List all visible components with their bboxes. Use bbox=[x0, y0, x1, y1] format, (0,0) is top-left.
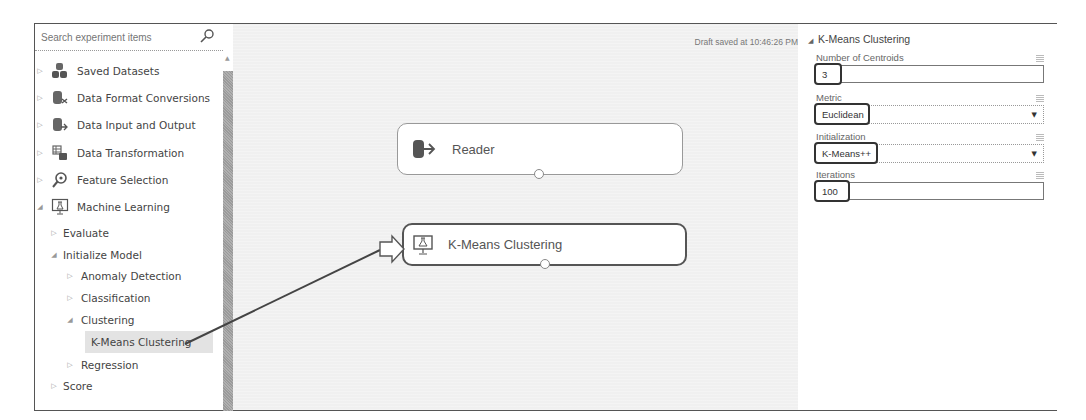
feature-selection-icon bbox=[49, 170, 71, 190]
tree-item-label: Clustering bbox=[81, 314, 135, 326]
expand-caret-icon[interactable]: ▷ bbox=[49, 229, 59, 237]
tree-item-label: Feature Selection bbox=[77, 174, 168, 186]
output-port[interactable] bbox=[534, 169, 544, 179]
tree-item-label: Classification bbox=[81, 292, 150, 304]
expand-caret-icon[interactable]: ▷ bbox=[65, 361, 75, 369]
tree-item-data-input-output[interactable]: ▷ Data Input and Output bbox=[35, 114, 196, 136]
dropdown-arrow-icon[interactable]: ▼ bbox=[1032, 111, 1037, 119]
number-of-centroids-input[interactable]: 3 bbox=[816, 65, 1044, 83]
properties-section-header[interactable]: ◢K-Means Clustering bbox=[808, 33, 910, 45]
properties-title: K-Means Clustering bbox=[818, 33, 910, 45]
module-kmeans-clustering[interactable]: K-Means Clustering bbox=[402, 223, 687, 266]
tree-item-label: Evaluate bbox=[63, 227, 109, 239]
field-value[interactable]: K-Means++ bbox=[814, 142, 878, 164]
field-metric: Metric Euclidean ▼ bbox=[816, 92, 1044, 124]
studio-window: ▷ Saved Datasets ▷ Data Format Conversio… bbox=[34, 23, 1057, 411]
tree-item-label: Anomaly Detection bbox=[81, 270, 181, 282]
draft-status: Draft saved at 10:46:26 PM bbox=[598, 37, 798, 47]
tree-item-label: Data Format Conversions bbox=[77, 92, 210, 104]
tree-item-label: Initialize Model bbox=[63, 249, 142, 261]
tree-item-label: Saved Datasets bbox=[77, 65, 159, 77]
tree-item-regression[interactable]: ▷ Regression bbox=[65, 354, 138, 376]
expand-caret-icon[interactable]: ▷ bbox=[35, 176, 45, 184]
properties-pane: ◢K-Means Clustering Number of Centroids … bbox=[798, 24, 1057, 410]
search-box[interactable] bbox=[35, 24, 223, 51]
module-label: K-Means Clustering bbox=[448, 237, 562, 252]
field-iterations: Iterations 100 bbox=[816, 169, 1044, 200]
tree-item-kmeans-clustering[interactable]: K-Means Clustering bbox=[85, 331, 213, 353]
scroll-up-icon[interactable]: ▲ bbox=[225, 54, 230, 61]
field-label: Number of Centroids bbox=[816, 52, 1044, 65]
field-value[interactable]: 3 bbox=[814, 63, 842, 85]
tree-item-label: Regression bbox=[81, 359, 138, 371]
tree-item-clustering[interactable]: ◢ Clustering bbox=[65, 309, 135, 331]
tree-item-label: Score bbox=[63, 380, 92, 392]
collapse-caret-icon[interactable]: ◢ bbox=[49, 251, 59, 259]
grip-icon bbox=[1036, 94, 1044, 102]
expand-caret-icon[interactable]: ▷ bbox=[35, 121, 45, 129]
expand-caret-icon[interactable]: ▷ bbox=[35, 67, 45, 75]
tree-item-data-transformation[interactable]: ▷ Data Transformation bbox=[35, 142, 184, 164]
expand-caret-icon[interactable]: ▷ bbox=[49, 382, 59, 390]
tree-item-label: K-Means Clustering bbox=[91, 336, 192, 348]
dropdown-arrow-icon[interactable]: ▼ bbox=[1032, 150, 1037, 158]
tree-item-anomaly-detection[interactable]: ▷ Anomaly Detection bbox=[65, 265, 181, 287]
collapse-caret-icon[interactable]: ◢ bbox=[65, 316, 75, 324]
field-initialization: Initialization K-Means++ ▼ bbox=[816, 131, 1044, 163]
machine-learning-icon bbox=[49, 197, 71, 217]
expand-caret-icon[interactable]: ▷ bbox=[35, 94, 45, 102]
data-input-output-icon bbox=[49, 115, 71, 135]
field-label: Iterations bbox=[816, 169, 1044, 182]
tree-item-score[interactable]: ▷ Score bbox=[49, 375, 92, 397]
tree-item-label: Data Input and Output bbox=[77, 119, 196, 131]
grip-icon bbox=[1036, 54, 1044, 62]
expand-caret-icon[interactable]: ▷ bbox=[65, 272, 75, 280]
output-port[interactable] bbox=[540, 259, 550, 269]
grip-icon bbox=[1036, 171, 1044, 179]
tree-item-feature-selection[interactable]: ▷ Feature Selection bbox=[35, 169, 168, 191]
field-value[interactable]: 100 bbox=[814, 180, 850, 202]
reader-icon bbox=[412, 138, 438, 160]
module-palette: ▷ Saved Datasets ▷ Data Format Conversio… bbox=[35, 24, 233, 410]
data-format-conversions-icon bbox=[49, 88, 71, 108]
tree-item-data-format-conversions[interactable]: ▷ Data Format Conversions bbox=[35, 87, 210, 109]
experiment-canvas[interactable]: Draft saved at 10:46:26 PM Reader K-Mean… bbox=[233, 24, 798, 410]
metric-select[interactable]: Euclidean ▼ bbox=[816, 105, 1044, 124]
tree-item-machine-learning[interactable]: ◢ Machine Learning bbox=[35, 196, 170, 218]
tree-item-initialize-model[interactable]: ◢ Initialize Model bbox=[49, 244, 142, 266]
collapse-caret-icon[interactable]: ◢ bbox=[808, 37, 813, 44]
search-icon[interactable] bbox=[199, 28, 215, 44]
expand-caret-icon[interactable]: ▷ bbox=[65, 294, 75, 302]
collapse-caret-icon[interactable]: ◢ bbox=[35, 203, 45, 211]
saved-datasets-icon bbox=[49, 61, 71, 81]
tree-item-label: Data Transformation bbox=[77, 147, 184, 159]
module-reader[interactable]: Reader bbox=[397, 123, 683, 175]
tree-item-saved-datasets[interactable]: ▷ Saved Datasets bbox=[35, 60, 159, 82]
kmeans-icon bbox=[412, 234, 434, 256]
tree-item-classification[interactable]: ▷ Classification bbox=[65, 287, 150, 309]
search-input[interactable] bbox=[39, 31, 203, 44]
palette-scrollbar[interactable]: ▲ bbox=[223, 51, 233, 411]
grip-icon bbox=[1036, 133, 1044, 141]
module-label: Reader bbox=[452, 142, 495, 157]
data-transformation-icon bbox=[49, 143, 71, 163]
initialization-select[interactable]: K-Means++ ▼ bbox=[816, 144, 1044, 163]
field-number-of-centroids: Number of Centroids 3 bbox=[816, 52, 1044, 83]
iterations-input[interactable]: 100 bbox=[816, 182, 1044, 200]
expand-caret-icon[interactable]: ▷ bbox=[35, 149, 45, 157]
scrollbar-thumb[interactable] bbox=[223, 71, 233, 411]
field-value[interactable]: Euclidean bbox=[814, 103, 870, 125]
tree-item-evaluate[interactable]: ▷ Evaluate bbox=[49, 222, 109, 244]
tree-item-label: Machine Learning bbox=[77, 201, 170, 213]
